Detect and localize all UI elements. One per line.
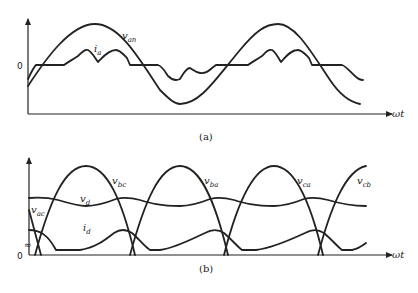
panel-b-caption: (b) (199, 263, 213, 274)
i-a-label: ia (94, 43, 101, 57)
v-ca-curve (224, 166, 323, 255)
waveform-figure: 0 ωt van ia (a) 0 ≈ ωt vbc vba vca vcb v… (0, 0, 418, 293)
axis-break-mark: ≈ (24, 240, 32, 250)
panel-a: 0 ωt van ia (a) (17, 19, 405, 142)
panel-b: 0 ≈ ωt vbc vba vca vcb vd vac id (b) (17, 158, 405, 274)
i-d-curve (29, 230, 366, 250)
i-d-label: id (83, 222, 91, 236)
v-ac-label: vac (31, 204, 45, 218)
panel-a-x-label: ωt (392, 108, 405, 119)
v-ba-label: vba (204, 175, 218, 189)
panel-a-zero-label: 0 (17, 61, 23, 71)
v-an-curve (28, 24, 360, 104)
v-cb-label: vcb (357, 175, 372, 189)
v-an-label: van (122, 30, 137, 44)
panel-a-caption: (a) (199, 131, 213, 142)
panel-b-x-label: ωt (392, 249, 405, 260)
panel-b-zero-label: 0 (17, 251, 23, 261)
v-bc-label: vbc (112, 175, 126, 189)
v-ba-curve (130, 166, 228, 255)
